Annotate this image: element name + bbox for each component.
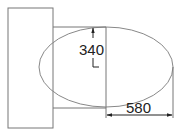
- rectangle-panel: [8, 8, 53, 128]
- technical-drawing: 340 580: [0, 0, 178, 135]
- dimension-label-340: 340: [79, 41, 104, 58]
- dimension-label-580: 580: [126, 99, 151, 116]
